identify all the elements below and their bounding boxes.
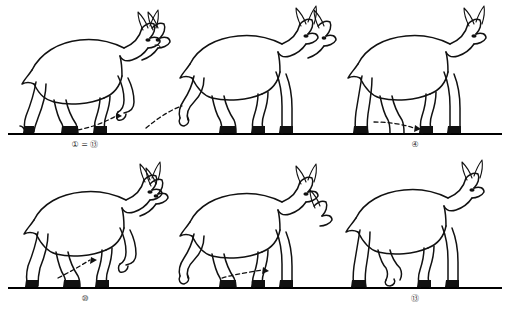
deer-drawing-3 (330, 0, 500, 150)
deer-body-6 (346, 160, 484, 254)
frame-caption-4: ⑩ (55, 294, 115, 304)
deer-figure-4: ⑩ (0, 162, 170, 312)
gait-row-top: ① = ⑬ (0, 0, 510, 162)
deer-legs-2 (179, 72, 293, 133)
deer-body-1 (22, 10, 160, 104)
deer-drawing-4 (0, 162, 170, 312)
deer-body-2 (180, 6, 318, 100)
deer-drawing-1 (0, 0, 170, 150)
deer-drawing-2 (160, 0, 330, 150)
deer-drawing-6 (330, 162, 500, 312)
deer-body-3 (348, 6, 486, 100)
figure-canvas: ① = ⑬ (0, 0, 510, 324)
deer-legs-4 (25, 228, 136, 287)
deer-figure-6: ⑯ (330, 162, 500, 312)
deer-figure-3: ⑦ (330, 0, 500, 150)
deer-figure-2: ④ (160, 0, 330, 150)
deer-figure-1: ① = ⑬ (0, 0, 170, 150)
frame-caption-1: ① = ⑬ (55, 140, 115, 150)
hoof-trajectory-arrow-3 (374, 122, 421, 132)
deer-body-4 (24, 162, 162, 256)
deer-figure-5: ⑬ (160, 162, 330, 312)
gait-row-bottom: ⑩ (0, 162, 510, 324)
deer-drawing-5 (160, 162, 330, 312)
deer-body-5 (180, 164, 318, 258)
